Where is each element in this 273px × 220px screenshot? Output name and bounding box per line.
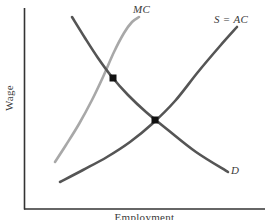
x-axis-label: Employment xyxy=(24,211,265,220)
demand-curve-label: D xyxy=(231,164,239,176)
monopsony-equilibrium-marker xyxy=(110,75,117,82)
supply-average-cost-curve xyxy=(60,27,237,182)
mc-curve-label: MC xyxy=(133,3,150,15)
competitive-equilibrium-marker xyxy=(152,117,159,124)
chart-canvas xyxy=(0,0,273,220)
supply-average-cost-curve-label: S = AC xyxy=(214,13,248,25)
y-axis-label: Wage xyxy=(3,76,15,120)
mc-curve xyxy=(55,17,139,162)
wage-employment-chart: MC S = AC D Wage Employment xyxy=(0,0,273,220)
